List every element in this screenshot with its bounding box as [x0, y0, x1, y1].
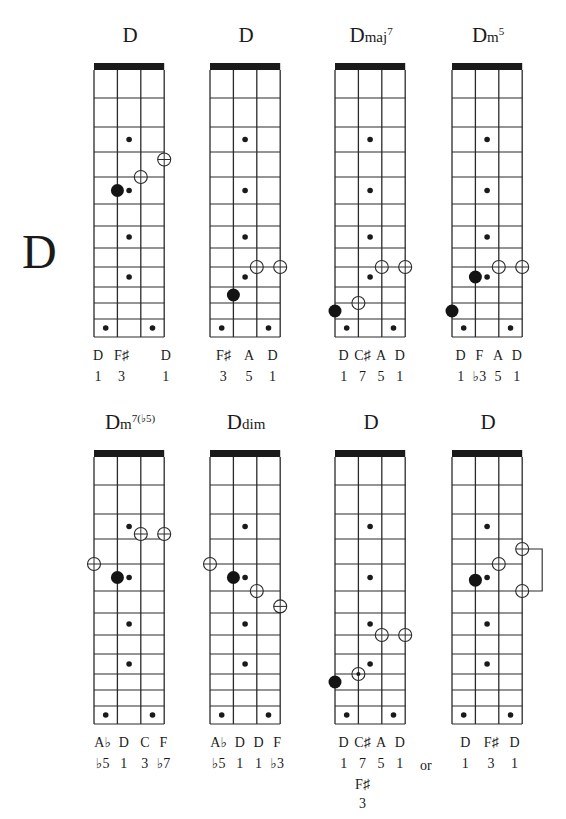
note-label: D	[512, 349, 522, 363]
nut-bar	[210, 450, 280, 457]
note-label: D	[235, 736, 245, 750]
inlay-marker	[126, 621, 132, 627]
inlay-marker	[367, 234, 373, 240]
inlay-marker-double	[266, 325, 272, 331]
degree-label: 1	[120, 757, 127, 771]
inlay-marker	[484, 524, 490, 530]
note-label: D	[339, 736, 349, 750]
degree-label: 1	[462, 757, 469, 771]
degree-label: 1	[511, 757, 518, 771]
inlay-marker	[242, 621, 248, 627]
note-label: D	[253, 736, 263, 750]
inlay-marker	[367, 137, 373, 143]
inlay-marker	[242, 274, 248, 280]
degree-label: ♭3	[270, 757, 284, 771]
degree-label: 1	[457, 370, 464, 384]
note-label: D	[395, 736, 405, 750]
degree-label: 1	[95, 370, 102, 384]
nut-bar	[452, 450, 522, 457]
inlay-marker	[126, 575, 132, 581]
finger-dot	[227, 289, 240, 302]
degree-label: ♭5	[212, 757, 226, 771]
inlay-marker-double	[508, 325, 514, 331]
inlay-marker	[484, 234, 490, 240]
note-label: D	[267, 349, 277, 363]
inlay-marker	[242, 234, 248, 240]
note-label: A	[244, 349, 254, 363]
inlay-marker-double	[461, 325, 467, 331]
finger-dot	[111, 571, 124, 584]
note-label: F♯	[114, 349, 129, 363]
degree-label: 3	[118, 370, 125, 384]
fretboard	[94, 387, 204, 747]
inlay-marker	[484, 188, 490, 194]
note-label: A	[376, 349, 386, 363]
inlay-marker-double	[391, 325, 397, 331]
note-label: F♯	[484, 736, 499, 750]
fretboard	[210, 0, 320, 360]
finger-dot	[329, 676, 342, 689]
inlay-marker	[484, 137, 490, 143]
note-label: D	[119, 736, 129, 750]
inlay-marker-double	[103, 712, 109, 718]
inlay-marker	[484, 661, 490, 667]
degree-label: 1	[513, 370, 520, 384]
finger-dot	[446, 305, 459, 318]
fretboard	[335, 387, 445, 747]
degree-label: 1	[162, 370, 169, 384]
degree-label: 1	[236, 757, 243, 771]
degree-label: 5	[246, 370, 253, 384]
inlay-marker	[367, 661, 373, 667]
note-label-alt: F♯	[355, 778, 370, 792]
inlay-marker-double	[391, 712, 397, 718]
degree-label: 7	[359, 370, 366, 384]
inlay-marker	[367, 575, 373, 581]
nut-bar	[210, 63, 280, 70]
inlay-marker-double	[266, 712, 272, 718]
inlay-marker-double	[219, 325, 225, 331]
degree-label: 1	[396, 757, 403, 771]
inlay-marker	[367, 621, 373, 627]
nut-bar	[452, 63, 522, 70]
nut-bar	[94, 63, 164, 70]
note-label: F	[160, 736, 168, 750]
nut-bar	[94, 450, 164, 457]
inlay-marker-double	[103, 325, 109, 331]
note-label: D	[339, 349, 349, 363]
fretboard	[210, 387, 320, 747]
key-letter: D	[22, 228, 57, 276]
finger-dot	[111, 184, 124, 197]
degree-label: 1	[396, 370, 403, 384]
inlay-marker	[242, 524, 248, 530]
degree-label: 5	[495, 370, 502, 384]
degree-label: 1	[269, 370, 276, 384]
note-label: A♭	[210, 736, 227, 750]
note-label: F	[273, 736, 281, 750]
inlay-marker	[242, 137, 248, 143]
note-label: C	[140, 736, 149, 750]
degree-label: 1	[340, 370, 347, 384]
finger-dot	[329, 305, 342, 318]
note-label: D	[460, 736, 470, 750]
fretboard	[335, 0, 445, 360]
degree-label: ♭3	[473, 370, 487, 384]
inlay-marker	[484, 621, 490, 627]
finger-dot	[227, 571, 240, 584]
degree-label: 3	[220, 370, 227, 384]
note-label: D	[395, 349, 405, 363]
note-label: F	[475, 349, 483, 363]
note-label: D	[93, 349, 103, 363]
inlay-marker-double	[150, 712, 156, 718]
fretboard	[452, 0, 562, 360]
degree-label: ♭7	[157, 757, 171, 771]
degree-label: 3	[141, 757, 148, 771]
inlay-marker	[484, 274, 490, 280]
fretboard	[94, 0, 204, 360]
degree-label: 1	[255, 757, 262, 771]
finger-dot	[469, 271, 482, 284]
degree-label: 5	[378, 757, 385, 771]
note-label: C♯	[354, 349, 370, 363]
note-label: A♭	[94, 736, 111, 750]
note-label: F♯	[216, 349, 231, 363]
nut-bar	[335, 450, 405, 457]
